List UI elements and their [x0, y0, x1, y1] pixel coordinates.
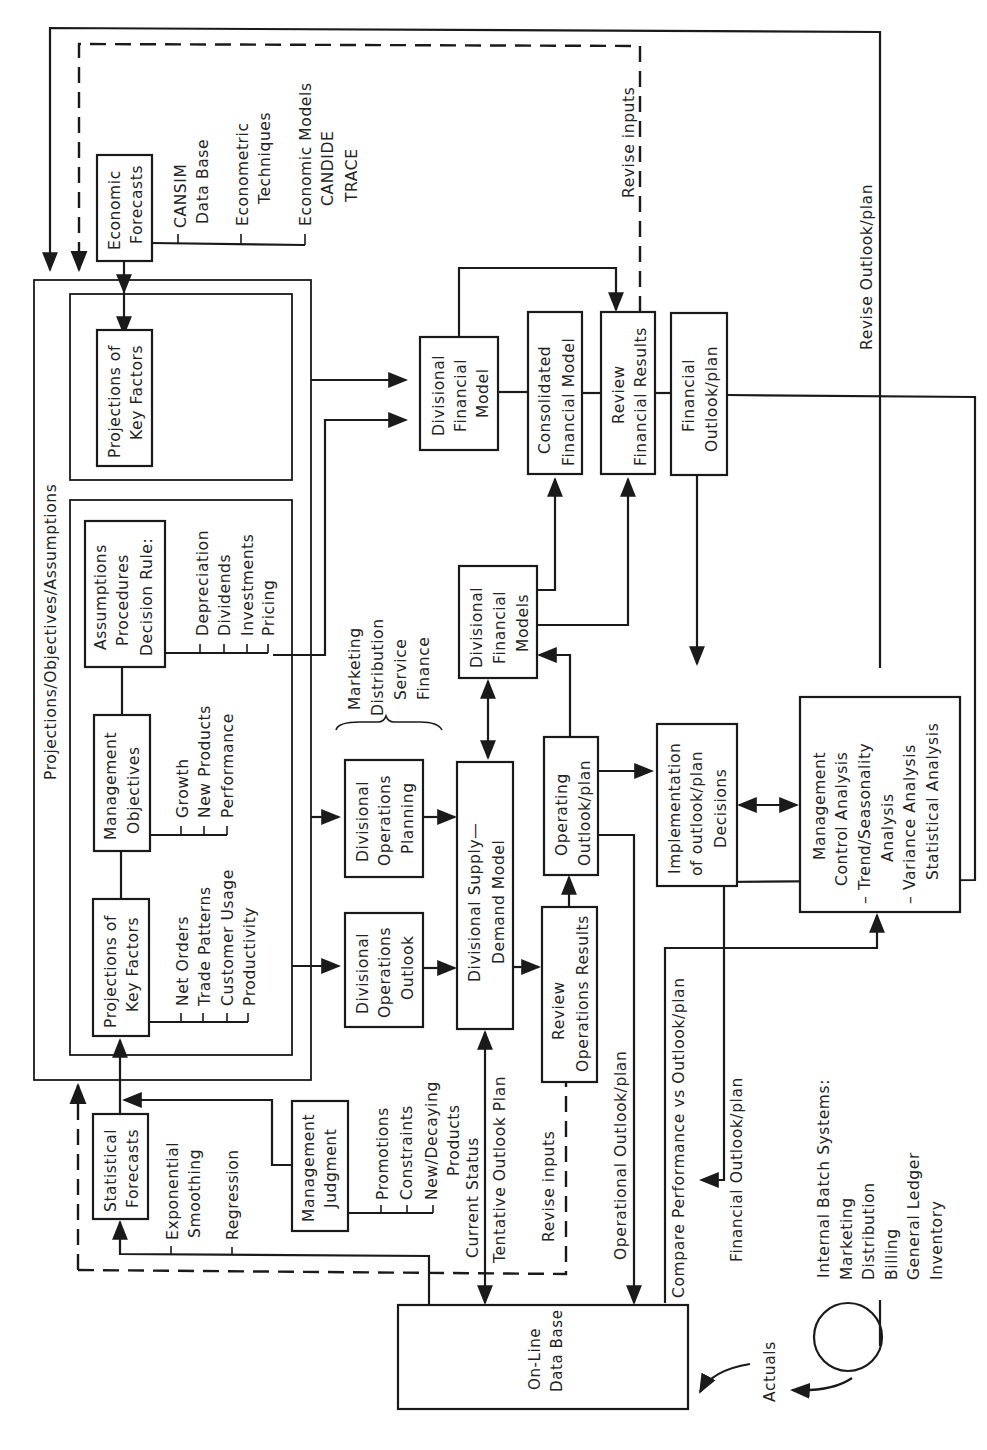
svg-text:Customer Usage: Customer Usage — [219, 869, 237, 1006]
svg-text:Outlook/plan: Outlook/plan — [576, 760, 594, 866]
revise-inputs-bottom-label: Revise inputs — [540, 1131, 558, 1242]
divisional-financial-model-box: Divisional Financial Model — [420, 337, 498, 450]
svg-text:Review: Review — [610, 365, 628, 424]
batch-systems-tape-icon — [814, 1300, 882, 1371]
svg-text:Divisional: Divisional — [354, 933, 372, 1014]
management-control-analysis-box: Management Control Analysis – Trend/Seas… — [800, 697, 960, 912]
svg-text:Growth: Growth — [174, 758, 192, 818]
svg-text:Operations: Operations — [376, 775, 394, 866]
svg-text:Inventory: Inventory — [928, 1201, 946, 1280]
svg-text:Assumptions: Assumptions — [92, 544, 110, 650]
svg-text:New Products: New Products — [196, 705, 214, 818]
svg-text:Statistical Analysis: Statistical Analysis — [924, 723, 942, 880]
revise-outlook-plan-label: Revise Outlook/plan — [858, 184, 876, 350]
svg-text:Demand Model: Demand Model — [490, 840, 508, 964]
judgment-items-bracket: Promotions Constraints New/Decaying Prod… — [348, 1081, 463, 1213]
svg-text:Productivity: Productivity — [241, 907, 259, 1006]
financial-outlook-plan-label: Financial Outlook/plan — [728, 1077, 746, 1262]
projections-key-factors-bottom-box: Projections of Key Factors — [93, 899, 149, 1036]
svg-text:Constraints: Constraints — [398, 1105, 416, 1200]
svg-text:Operations: Operations — [376, 927, 394, 1018]
svg-text:Divisional: Divisional — [468, 587, 486, 668]
svg-text:Financial: Financial — [452, 359, 470, 432]
key-factors-bracket: Net Orders Trade Patterns Customer Usage… — [149, 869, 259, 1022]
financial-planning-diagram: Projections/Objectives/Assumptions Econo… — [0, 0, 987, 1450]
operational-outlook-plan-label: Operational Outlook/plan — [612, 1051, 630, 1260]
projections-key-factors-top-box: Projections of Key Factors — [97, 330, 152, 466]
svg-text:– Trend/Seasonality: – Trend/Seasonality — [856, 743, 874, 904]
management-objectives-box: Management Objectives — [94, 715, 150, 851]
economic-sources-bracket: CANSIM Data Base Econometric Techniques … — [152, 82, 361, 245]
svg-text:Operations Results: Operations Results — [574, 915, 592, 1072]
svg-text:Net Orders: Net Orders — [174, 916, 192, 1006]
divisional-operations-outlook-box: Divisional Operations Outlook — [345, 913, 423, 1027]
svg-text:General Ledger: General Ledger — [905, 1152, 923, 1280]
svg-text:Econometric: Econometric — [234, 122, 252, 226]
svg-text:Economic Models: Economic Models — [297, 82, 315, 226]
review-financial-results-box: Review Financial Results — [601, 312, 655, 474]
statistical-methods-labels: Exponential Smoothing Regression — [164, 1142, 242, 1240]
svg-text:CANDIDE: CANDIDE — [319, 131, 337, 206]
svg-text:of outlook/plan: of outlook/plan — [688, 751, 706, 876]
svg-text:Decisions: Decisions — [712, 769, 730, 848]
svg-text:Objectives: Objectives — [125, 746, 143, 834]
svg-text:Management: Management — [300, 1114, 318, 1222]
svg-text:Outlook: Outlook — [399, 935, 417, 1000]
review-operations-results-box: Review Operations Results — [542, 907, 597, 1082]
svg-text:Products: Products — [445, 1104, 463, 1176]
divisional-financial-models-box: Divisional Financial Models — [459, 566, 537, 678]
divisional-supply-demand-model-box: Divisional Supply— Demand Model — [457, 762, 513, 1029]
svg-text:Operating: Operating — [553, 773, 571, 856]
svg-text:On-Line: On-Line — [526, 1328, 544, 1390]
svg-text:CANSIM: CANSIM — [172, 164, 190, 228]
svg-text:Pricing: Pricing — [260, 580, 278, 636]
compare-performance-label: Compare Performance vs Outlook/plan — [670, 977, 688, 1298]
svg-text:Promotions: Promotions — [374, 1107, 392, 1200]
svg-text:Distribution: Distribution — [860, 1182, 878, 1280]
svg-text:Review: Review — [550, 981, 568, 1040]
svg-text:TRACE: TRACE — [343, 148, 361, 203]
implementation-decisions-box: Implementation of outlook/plan Decisions — [657, 724, 737, 886]
svg-text:Judgment: Judgment — [322, 1129, 340, 1209]
assumptions-procedures-box: Assumptions Procedures Decision Rule: — [85, 521, 165, 667]
statistical-forecasts-box: Statistical Forecasts — [93, 1114, 148, 1219]
svg-text:Distribution: Distribution — [369, 618, 387, 716]
svg-text:Divisional Supply—: Divisional Supply— — [466, 823, 484, 982]
svg-text:Planning: Planning — [399, 782, 417, 854]
svg-text:Trade Patterns: Trade Patterns — [196, 886, 214, 1007]
svg-text:Implementation: Implementation — [666, 743, 684, 874]
svg-text:Exponential: Exponential — [164, 1142, 182, 1240]
svg-text:Techniques: Techniques — [256, 112, 274, 205]
svg-text:Divisional: Divisional — [354, 781, 372, 862]
svg-text:Financial Model: Financial Model — [560, 338, 578, 466]
svg-text:New/Decaying: New/Decaying — [423, 1081, 441, 1200]
objectives-bracket: Growth New Products Performance — [150, 705, 237, 835]
management-judgment-box: Management Judgment — [292, 1101, 348, 1231]
batch-systems-list: Internal Batch Systems: Marketing Distri… — [815, 1079, 946, 1280]
svg-text:Divisional: Divisional — [430, 355, 448, 436]
svg-text:Investments: Investments — [239, 534, 257, 636]
svg-text:Smoothing: Smoothing — [186, 1149, 204, 1238]
svg-text:Economic: Economic — [106, 170, 124, 250]
svg-text:Depreciation: Depreciation — [194, 530, 212, 636]
svg-text:Data Base: Data Base — [548, 1309, 566, 1392]
svg-text:Forecasts: Forecasts — [128, 165, 146, 244]
svg-text:Key Factors: Key Factors — [128, 345, 146, 440]
svg-text:Model: Model — [474, 368, 492, 418]
svg-text:Internal Batch Systems:: Internal Batch Systems: — [815, 1079, 833, 1278]
operating-outlook-plan-box: Operating Outlook/plan — [544, 737, 598, 875]
decision-rules-bracket: Depreciation Dividends Investments Prici… — [165, 530, 278, 653]
economic-forecasts-box: Economic Forecasts — [97, 155, 152, 261]
svg-text:Outlook/plan: Outlook/plan — [703, 346, 721, 452]
current-status-label: Current Status — [464, 1137, 482, 1258]
svg-text:Financial: Financial — [491, 591, 509, 664]
consolidated-financial-model-box: Consolidated Financial Model — [528, 312, 582, 474]
svg-text:Statistical: Statistical — [102, 1129, 120, 1212]
svg-text:Management: Management — [811, 752, 829, 860]
tentative-outlook-plan-label: Tentative Outlook Plan — [491, 1076, 509, 1264]
svg-text:Marketing: Marketing — [838, 1197, 856, 1280]
svg-text:Financial: Financial — [680, 359, 698, 432]
svg-text:Service: Service — [392, 639, 410, 701]
svg-text:Key Factors: Key Factors — [124, 917, 142, 1012]
svg-text:Models: Models — [514, 594, 532, 652]
